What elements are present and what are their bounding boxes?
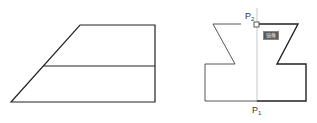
- diagram-canvas: [0, 0, 317, 123]
- trapezoid-figure: [11, 25, 155, 102]
- point-label-p1: P1: [252, 106, 261, 116]
- mirror-figure: [205, 8, 306, 102]
- p2-grip-icon[interactable]: [254, 22, 259, 27]
- mirror-badge: 镜像: [263, 31, 279, 40]
- trapezoid-outline: [11, 25, 155, 102]
- left-half-outline: [205, 24, 257, 101]
- point-label-p2: P2: [245, 12, 254, 22]
